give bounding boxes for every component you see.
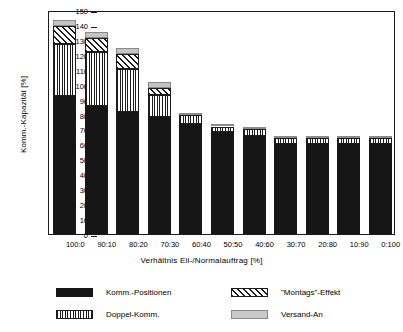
bar-segment	[243, 129, 266, 136]
bar-segment	[369, 144, 392, 234]
bar-segment	[243, 136, 266, 234]
legend-item: "Montags"-Effekt	[231, 288, 340, 297]
bar-segment	[148, 88, 171, 95]
bar-segment	[179, 113, 202, 115]
bar-segment	[211, 132, 234, 234]
bar-segment	[116, 48, 139, 54]
legend-swatch	[231, 310, 268, 319]
legend-label: Komm.-Positionen	[106, 288, 171, 297]
legend-label: Doppel-Komm.	[106, 310, 159, 319]
y-tick-mark	[91, 27, 97, 28]
bar-segment	[369, 136, 392, 138]
y-axis-title: Komm.-Kapazität [%]	[19, 40, 28, 190]
bar-segment	[274, 144, 297, 234]
bar-segment	[85, 38, 108, 51]
bar-segment	[148, 95, 171, 117]
bar-segment	[337, 136, 360, 138]
bar-segment	[116, 54, 139, 69]
legend-swatch	[231, 288, 268, 297]
bar-segment	[243, 127, 266, 129]
bar-segment	[53, 44, 76, 96]
y-tick-mark	[91, 236, 97, 237]
bar-segment	[211, 124, 234, 126]
bar-chart: Komm.-Kapazität [%] 01020304050607080901…	[0, 0, 403, 332]
bar-segment	[211, 127, 234, 132]
y-tick-mark	[91, 12, 97, 13]
chart-legend: Komm.-Positionen"Montags"-EffektDoppel-K…	[56, 288, 386, 328]
y-tick-label: 140	[75, 22, 88, 31]
bar-segment	[306, 138, 329, 143]
y-tick-label: 150	[75, 7, 88, 16]
legend-item: Doppel-Komm.	[56, 310, 159, 319]
bar-segment	[116, 112, 139, 234]
legend-label: "Montags"-Effekt	[281, 288, 340, 297]
bar-segment	[85, 32, 108, 38]
bar-segment	[53, 26, 76, 43]
legend-item: Versand-An	[231, 310, 323, 319]
bar-segment	[274, 138, 297, 143]
bar-segment	[337, 144, 360, 234]
x-tick-label: 0:100	[361, 240, 403, 249]
bar-segment	[369, 138, 392, 143]
bar-segment	[85, 106, 108, 234]
bar-segment	[53, 20, 76, 26]
bar-segment	[337, 138, 360, 143]
legend-swatch	[56, 310, 93, 319]
bar-segment	[116, 69, 139, 112]
legend-item: Komm.-Positionen	[56, 288, 171, 297]
bar-segment	[179, 115, 202, 124]
legend-swatch	[56, 288, 93, 297]
bar-segment	[179, 124, 202, 234]
bar-segment	[274, 136, 297, 138]
bar-segment	[306, 136, 329, 138]
x-axis-title: Verhältnis Eil-/Normalauftrag [%]	[0, 256, 403, 265]
bar-segment	[53, 96, 76, 234]
legend-label: Versand-An	[281, 310, 323, 319]
bar-segment	[85, 52, 108, 106]
bar-segment	[148, 82, 171, 88]
bar-segment	[306, 144, 329, 234]
bar-segment	[148, 117, 171, 234]
plot-area: 0102030405060708090100110120130140150	[48, 11, 395, 235]
